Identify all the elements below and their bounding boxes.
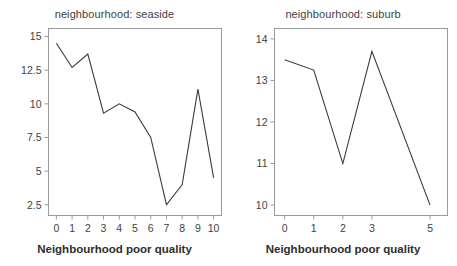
x-axis-label-suburb: Neighbourhood poor quality	[229, 243, 457, 255]
x-tick-label: 0	[282, 222, 288, 234]
data-series-line-suburb	[285, 51, 430, 205]
x-tick-label: 5	[132, 222, 138, 234]
data-series-line-seaside	[56, 43, 213, 204]
y-tick-label: 11	[257, 157, 268, 169]
x-tick-label: 2	[340, 222, 346, 234]
y-tick-label: 5	[36, 165, 42, 177]
x-tick-label: 5	[427, 222, 433, 234]
y-axis-ticks-seaside: 2.557.51012.515	[21, 30, 48, 210]
x-axis-label-seaside: Neighbourhood poor quality	[0, 243, 229, 255]
y-axis-ticks-suburb: 1011121314	[256, 33, 275, 211]
plot-frame-suburb	[275, 29, 448, 216]
chart-panel-suburb: neighbourhood: suburb 1011121314 01235 N…	[229, 0, 457, 266]
x-tick-label: 10	[208, 222, 220, 234]
y-tick-label: 2.5	[27, 199, 42, 211]
x-tick-label: 3	[101, 222, 107, 234]
x-tick-label: 4	[116, 222, 122, 234]
y-tick-label: 12.5	[21, 64, 42, 76]
plot-frame-seaside	[49, 29, 222, 216]
y-tick-label: 13	[256, 74, 268, 86]
figure-panel-chart: neighbourhood: seaside 2.557.51012.515 0…	[0, 0, 457, 266]
x-tick-label: 2	[85, 222, 91, 234]
x-tick-label: 1	[311, 222, 317, 234]
x-tick-label: 9	[195, 222, 201, 234]
y-tick-label: 7.5	[27, 131, 42, 143]
x-tick-label: 6	[148, 222, 154, 234]
x-tick-label: 3	[369, 222, 375, 234]
y-tick-label: 10	[256, 199, 268, 211]
x-tick-label: 7	[164, 222, 170, 234]
y-tick-label: 12	[256, 116, 268, 128]
x-axis-ticks-seaside: 012345678910	[53, 216, 219, 234]
x-tick-label: 0	[53, 222, 59, 234]
x-tick-label: 8	[179, 222, 185, 234]
y-tick-label: 10	[30, 98, 42, 110]
plot-area-seaside: 2.557.51012.515 012345678910	[0, 0, 229, 266]
x-tick-label: 1	[69, 222, 75, 234]
y-tick-label: 15	[30, 30, 42, 42]
y-tick-label: 14	[256, 33, 268, 45]
plot-area-suburb: 1011121314 01235	[229, 0, 457, 266]
chart-panel-seaside: neighbourhood: seaside 2.557.51012.515 0…	[0, 0, 229, 266]
x-axis-ticks-suburb: 01235	[282, 216, 433, 234]
